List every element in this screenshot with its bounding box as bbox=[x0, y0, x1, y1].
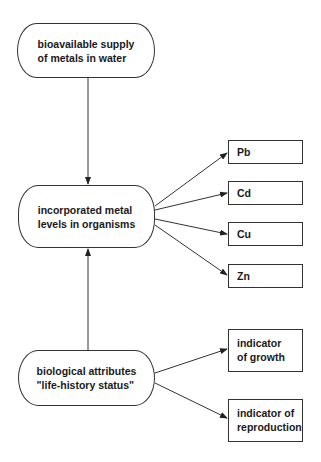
node-label-line1: biological attributes bbox=[37, 364, 137, 378]
node-label-line2: of metals in water bbox=[38, 51, 135, 65]
node-label-line1: indicator of bbox=[237, 406, 302, 420]
node-cu: Cu bbox=[228, 222, 303, 246]
node-label-line2: reproduction bbox=[237, 420, 302, 434]
arrow-to-cu bbox=[155, 219, 227, 234]
node-label: Zn bbox=[237, 270, 250, 282]
arrow-to-reproduction bbox=[155, 383, 227, 418]
node-indicator-reproduction: indicator of reproduction bbox=[228, 399, 303, 442]
arrow-to-cd bbox=[155, 193, 227, 210]
node-label-line2: of growth bbox=[237, 350, 302, 364]
node-label-line2: levels in organisms bbox=[38, 217, 135, 231]
node-label: Pb bbox=[237, 146, 250, 158]
node-zn: Zn bbox=[228, 264, 303, 288]
arrow-to-pb bbox=[155, 153, 227, 206]
node-pb: Pb bbox=[228, 140, 303, 164]
node-label-line1: indicator bbox=[237, 336, 302, 350]
node-label-line1: bioavailable supply bbox=[38, 37, 135, 51]
node-incorporated-metal-levels: incorporated metal levels in organisms bbox=[18, 185, 155, 248]
node-label-line1: incorporated metal bbox=[38, 203, 135, 217]
node-label-line2: "life-history status" bbox=[37, 378, 137, 392]
arrow-to-zn bbox=[155, 225, 227, 275]
arrow-to-growth bbox=[155, 349, 227, 373]
node-indicator-growth: indicator of growth bbox=[228, 329, 303, 372]
node-cd: Cd bbox=[228, 181, 303, 205]
node-label: Cu bbox=[237, 228, 251, 240]
node-bioavailable-supply: bioavailable supply of metals in water bbox=[17, 23, 155, 78]
node-label: Cd bbox=[237, 187, 251, 199]
node-biological-attributes: biological attributes "life-history stat… bbox=[18, 350, 155, 406]
